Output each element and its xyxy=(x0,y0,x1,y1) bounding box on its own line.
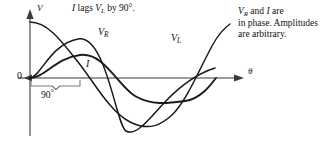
phase-note: VR and I are in phase. Amplitudes are ar… xyxy=(238,6,318,40)
x-axis-arrowhead xyxy=(234,74,244,81)
curve-label-vl-sub: L xyxy=(177,37,181,45)
x-axis-label: θ xyxy=(248,66,252,77)
lag-note-post: by 90°. xyxy=(105,3,135,13)
phase-bracket-degree: ° xyxy=(51,87,54,97)
phase-note-line2: in phase. Amplitudes xyxy=(238,18,318,29)
lag-note: I lags VL by 90°. xyxy=(72,3,135,15)
y-axis-arrowhead xyxy=(26,9,33,19)
phase-note-line3: are arbitrary. xyxy=(238,29,318,40)
phase-note-mid: and xyxy=(248,6,266,16)
lag-note-mid: lags xyxy=(75,3,95,13)
origin-label: 0 xyxy=(17,70,22,82)
curve-label-vr-sub: R xyxy=(104,31,108,39)
y-axis-label: V xyxy=(37,3,43,14)
curve-label-vr: VR xyxy=(98,26,109,40)
phase-note-post: are xyxy=(270,6,284,16)
axis-group xyxy=(18,9,244,136)
curve-i xyxy=(30,55,216,103)
phase-note-line1: VR and I are xyxy=(238,6,318,18)
curve-label-i: I xyxy=(86,58,89,70)
waveform-figure: V θ 0 I lags VL by 90°. VR and I are in … xyxy=(0,0,335,144)
phase-bracket-label: 90° xyxy=(41,87,54,101)
phase-bracket-value: 90 xyxy=(41,90,51,100)
curve-label-vl: VL xyxy=(171,32,181,46)
phase-bracket xyxy=(31,80,80,90)
